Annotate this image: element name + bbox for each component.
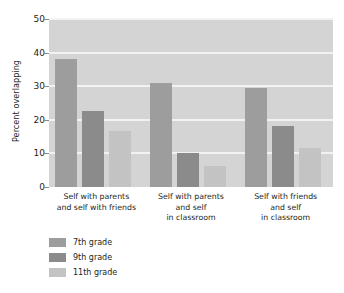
gridline xyxy=(49,18,333,20)
y-axis-tick-label: 40 xyxy=(23,48,45,58)
y-axis-tick-label: 20 xyxy=(23,115,45,125)
bar xyxy=(299,148,321,187)
legend-label: 11th grade xyxy=(73,268,117,277)
legend-item[interactable]: 11th grade xyxy=(49,265,117,280)
bar xyxy=(109,131,131,187)
legend-swatch-icon xyxy=(49,238,66,247)
x-axis-category-label: Self with friends and self in classroom xyxy=(230,192,341,224)
gridline xyxy=(49,85,333,87)
y-axis-tick-label: 0 xyxy=(23,182,45,192)
y-axis-tick-mark xyxy=(44,187,49,188)
y-axis-tick-label: 10 xyxy=(23,148,45,158)
gridline xyxy=(49,52,333,54)
bar xyxy=(204,166,226,187)
legend-item[interactable]: 7th grade xyxy=(49,235,117,250)
legend-swatch-icon xyxy=(49,253,66,262)
bar xyxy=(177,153,199,187)
bar-chart-figure: Percent overlapping 01020304050 Self wit… xyxy=(0,0,344,293)
legend-label: 9th grade xyxy=(73,253,112,262)
chart-legend: 7th grade9th grade11th grade xyxy=(49,235,117,280)
y-axis-label: Percent overlapping xyxy=(12,6,26,196)
y-axis-tick-label: 50 xyxy=(23,14,45,24)
bar xyxy=(272,126,294,187)
bar xyxy=(82,111,104,187)
y-axis-tick-label: 30 xyxy=(23,81,45,91)
legend-item[interactable]: 9th grade xyxy=(49,250,117,265)
legend-label: 7th grade xyxy=(73,238,112,247)
bar xyxy=(150,83,172,187)
bar xyxy=(245,88,267,187)
legend-swatch-icon xyxy=(49,268,66,277)
plot-area xyxy=(49,19,333,187)
bar xyxy=(55,59,77,187)
